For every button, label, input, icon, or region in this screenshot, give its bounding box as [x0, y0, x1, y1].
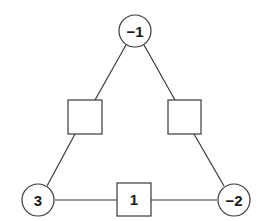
circle-label: 3 — [34, 192, 42, 209]
line-top-to-left-square — [95, 45, 126, 100]
circle-node-bottom-left: 3 — [22, 184, 54, 216]
circle-label: −1 — [126, 23, 143, 40]
square-node-right — [168, 100, 201, 134]
line-top-to-right-square — [144, 45, 175, 100]
square-shape — [168, 100, 201, 134]
square-node-left — [68, 100, 102, 134]
circle-label: −2 — [225, 192, 242, 209]
square-node-bottom: 1 — [117, 183, 151, 216]
circle-node-top: −1 — [119, 15, 151, 47]
line-left-square-to-bottom-left — [47, 134, 75, 186]
square-shape — [68, 100, 102, 134]
line-right-square-to-bottom-right — [194, 134, 224, 186]
square-label: 1 — [130, 191, 138, 208]
circle-node-bottom-right: −2 — [218, 184, 250, 216]
triangle-diagram: −1 3 −2 1 — [0, 0, 259, 221]
